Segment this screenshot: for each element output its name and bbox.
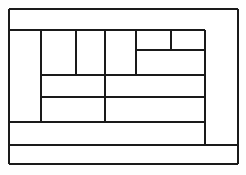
- region-mid-left: [41, 75, 105, 97]
- region-lower-band: [9, 122, 205, 145]
- diagram-root: [0, 0, 246, 175]
- region-bottom-band: [9, 145, 238, 164]
- region-cell-4: [136, 30, 171, 50]
- region-faces: [9, 9, 238, 164]
- rectangle-partition-figure: [0, 0, 246, 175]
- region-lower-wide: [41, 97, 205, 122]
- region-left-column: [9, 30, 41, 122]
- region-right-column: [205, 30, 238, 145]
- region-cell-2: [76, 30, 105, 75]
- region-cell-6: [136, 50, 205, 75]
- region-cell-1: [41, 30, 76, 75]
- region-cell-5: [171, 30, 205, 50]
- region-mid-right: [105, 75, 205, 97]
- region-cell-3: [105, 30, 136, 75]
- region-top-band: [9, 9, 238, 30]
